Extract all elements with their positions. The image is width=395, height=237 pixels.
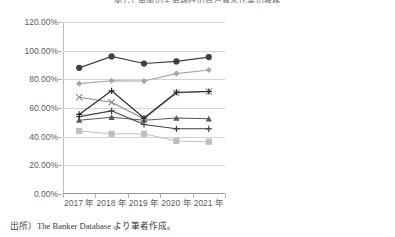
- x-axis: 2017 年2018 年2019 年2020 年2021 年: [63, 196, 225, 210]
- series-layer: [63, 22, 225, 194]
- y-axis-tick: [58, 79, 62, 80]
- y-axis-tick: [58, 165, 62, 166]
- y-axis-tick: [58, 108, 62, 109]
- data-point-diamond: [206, 67, 212, 73]
- x-axis-tick: [95, 194, 96, 198]
- x-axis-tick-label: 2021 年: [194, 196, 224, 208]
- source-footnote: 出所）The Banker Database より筆者作成。: [10, 219, 176, 231]
- x-axis-tick: [63, 194, 64, 198]
- data-point-square: [76, 128, 82, 134]
- data-point-diamond: [109, 78, 115, 84]
- data-point-diamond: [76, 81, 82, 87]
- y-axis-tick: [58, 137, 62, 138]
- x-axis-tick-label: 2020 年: [161, 196, 191, 208]
- data-point-square: [173, 138, 179, 144]
- data-point-square: [109, 131, 115, 137]
- y-axis-tick: [58, 22, 62, 23]
- x-axis-tick: [128, 194, 129, 198]
- x-axis-tick-label: 2018 年: [96, 196, 126, 208]
- y-axis-tick-label: 80.00%: [0, 74, 58, 84]
- y-axis-tick-label: 60.00%: [0, 103, 58, 113]
- y-axis-tick-label: 40.00%: [0, 132, 58, 142]
- data-point-cross: [109, 108, 115, 114]
- data-point-cross: [173, 126, 179, 132]
- x-axis-tick: [225, 194, 226, 198]
- plot-area: [63, 22, 225, 194]
- y-axis-tick-label: 20.00%: [0, 160, 58, 170]
- y-axis-tick: [58, 51, 62, 52]
- y-axis-tick-label: 120.00%: [0, 17, 58, 27]
- x-axis-tick-label: 2017 年: [64, 196, 94, 208]
- data-point-circle: [206, 54, 212, 60]
- x-axis-tick: [160, 194, 161, 198]
- y-axis-tick-label: 100.00%: [0, 46, 58, 56]
- y-axis: 0.00%20.00%40.00%60.00%80.00%100.00%120.…: [0, 22, 58, 194]
- data-point-diamond: [141, 78, 147, 84]
- x-axis-tick: [193, 194, 194, 198]
- data-point-diamond: [173, 71, 179, 77]
- data-point-cross: [206, 126, 212, 132]
- x-axis-tick-label: 2019 年: [129, 196, 159, 208]
- chart-page: 図7-1 英国の主要銀行の自己資本比率の推移 0.00%20.00%40.00%…: [0, 0, 395, 237]
- series-line: [79, 92, 209, 119]
- chart-title: 図7-1 英国の主要銀行の自己資本比率の推移: [0, 0, 395, 3]
- data-point-circle: [141, 60, 147, 66]
- data-point-square: [141, 131, 147, 137]
- data-point-circle: [76, 65, 82, 71]
- data-point-square: [206, 139, 212, 145]
- y-axis-tick-label: 0.00%: [0, 189, 58, 199]
- y-axis-tick: [58, 194, 62, 195]
- data-point-circle: [173, 58, 179, 64]
- data-point-circle: [109, 53, 115, 59]
- series-line: [79, 91, 209, 118]
